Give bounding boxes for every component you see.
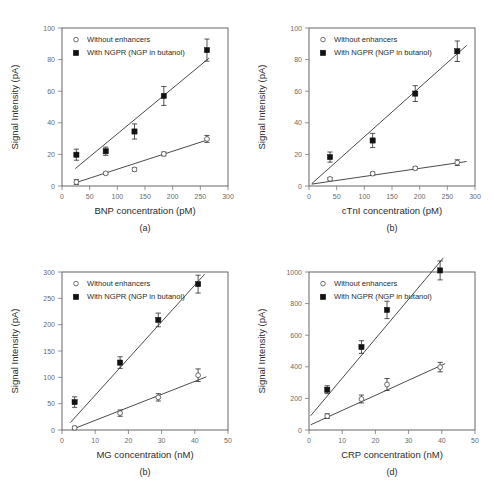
data-point-open-circle [325,414,330,419]
x-tick-label: 100 [111,193,123,200]
y-tick-label: 40 [47,119,55,126]
y-tick-label: 0 [298,183,302,190]
legend-open-circle-icon [74,281,79,286]
y-tick-label: 100 [290,25,302,32]
plot-area-d: 0200400600800100001020304050CRP concentr… [247,244,494,488]
chart-panel-c: 05010015020025030001020304050MG concentr… [0,244,247,488]
x-axis-title: CRP concentration (nM) [341,449,443,460]
x-tick-label: 100 [358,193,370,200]
y-tick-label: 60 [294,88,302,95]
data-point-open-circle [359,397,364,402]
series-without-enhancers [74,135,210,184]
x-tick-label: 20 [125,437,133,444]
panel-caption: (a) [140,223,151,233]
data-point-filled-square [325,387,330,392]
data-point-open-circle [103,171,108,176]
data-point-filled-square [384,307,389,312]
data-point-open-circle [156,395,161,400]
fit-line [311,364,445,425]
y-tick-label: 80 [47,56,55,63]
y-tick-label: 0 [51,183,55,190]
x-tick-label: 50 [86,193,94,200]
fit-line [72,377,206,430]
data-point-open-circle [413,166,418,171]
y-tick-label: 40 [294,119,302,126]
data-point-open-circle [74,180,79,185]
y-tick-label: 60 [47,88,55,95]
data-point-filled-square [327,154,332,159]
data-point-filled-square [103,149,108,154]
series-without-enhancers [72,369,206,430]
x-tick-label: 20 [372,437,380,444]
y-axis-title: Signal Intensity (pA) [256,308,267,393]
x-tick-label: 150 [386,193,398,200]
panel-caption: (b) [387,223,398,233]
legend-label-with-ngpr: With NGPR (NGP in butanol) [334,48,432,57]
data-point-filled-square [74,152,79,157]
data-point-open-circle [132,167,137,172]
x-tick-label: 50 [224,437,232,444]
y-tick-label: 300 [43,269,55,276]
figure-container: 020406080100050100150200250300BNP concen… [0,0,494,488]
data-point-open-circle [205,137,210,142]
y-tick-label: 200 [290,395,302,402]
data-point-filled-square [359,344,364,349]
legend: Without enhancersWith NGPR (NGP in butan… [320,35,432,57]
y-tick-label: 20 [294,151,302,158]
x-tick-label: 200 [414,193,426,200]
data-point-filled-square [196,282,201,287]
x-tick-label: 150 [139,193,151,200]
legend-filled-square-icon [73,50,78,55]
x-tick-label: 0 [60,193,64,200]
data-point-filled-square [413,91,418,96]
y-tick-label: 50 [47,400,55,407]
panel-caption: (b) [140,467,151,477]
x-axis-title: cTnI concentration (pM) [342,205,442,216]
data-point-filled-square [438,268,443,273]
legend: Without enhancersWith NGPR (NGP in butan… [73,35,185,57]
data-point-open-circle [370,171,375,176]
data-point-filled-square [161,93,166,98]
y-axis-title: Signal Intensity (pA) [256,64,267,149]
legend-open-circle-icon [321,281,326,286]
legend-open-circle-icon [74,37,79,42]
legend-open-circle-icon [321,37,326,42]
legend-label-without-enhancers: Without enhancers [87,279,151,288]
data-point-filled-square [455,49,460,54]
y-tick-label: 0 [298,427,302,434]
fit-line [75,58,209,169]
y-tick-label: 400 [290,363,302,370]
x-tick-label: 0 [307,437,311,444]
x-tick-label: 250 [441,193,453,200]
data-point-open-circle [118,411,123,416]
legend: Without enhancersWith NGPR (NGP in butan… [73,279,185,301]
legend-label-with-ngpr: With NGPR (NGP in butanol) [334,292,432,301]
x-tick-label: 250 [194,193,206,200]
legend-filled-square-icon [320,294,325,299]
series-without-enhancers [311,362,445,424]
y-tick-label: 100 [43,25,55,32]
y-tick-label: 800 [290,300,302,307]
legend-label-without-enhancers: Without enhancers [334,35,398,44]
chart-panel-b: 020406080100050100150200250300cTnI conce… [247,0,494,244]
data-point-open-circle [161,152,166,157]
data-point-filled-square [204,48,209,53]
series-with-ngpr [74,39,210,169]
data-point-open-circle [385,382,390,387]
x-tick-label: 300 [469,193,481,200]
legend-label-with-ngpr: With NGPR (NGP in butanol) [87,292,185,301]
legend-label-with-ngpr: With NGPR (NGP in butanol) [87,48,185,57]
data-point-open-circle [455,160,460,165]
data-point-filled-square [132,129,137,134]
y-tick-label: 1000 [286,269,302,276]
data-point-filled-square [156,317,161,322]
x-tick-label: 30 [158,437,166,444]
x-axis-title: MG concentration (nM) [96,449,193,460]
plot-area-b: 020406080100050100150200250300cTnI conce… [247,0,494,244]
series-with-ngpr [312,41,467,184]
legend-filled-square-icon [73,294,78,299]
y-tick-label: 200 [43,321,55,328]
fit-line [312,162,467,185]
y-tick-label: 250 [43,295,55,302]
panel-caption: (d) [387,467,398,477]
